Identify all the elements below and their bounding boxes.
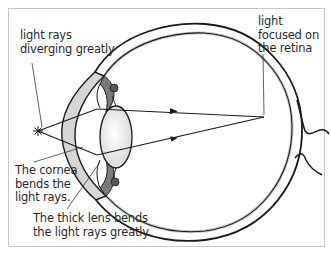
label-diverging: light rays diverging greatly bbox=[20, 29, 115, 56]
label-focused-line2: focused on bbox=[258, 29, 319, 43]
label-focused-line3: the retina bbox=[258, 42, 319, 56]
label-lens: The thick lens bends the light rays grea… bbox=[33, 212, 151, 239]
label-diverging-line1: light rays bbox=[20, 29, 115, 43]
label-focused-line1: light bbox=[258, 15, 319, 29]
label-focused: light focused on the retina bbox=[258, 15, 319, 56]
optic-nerve bbox=[295, 100, 329, 175]
label-lens-line1: The thick lens bends bbox=[33, 212, 151, 226]
arrow-head-upper bbox=[170, 108, 178, 114]
label-lens-line2: the light rays greatly. bbox=[33, 226, 151, 240]
label-cornea-line2: bends the bbox=[15, 178, 77, 192]
label-cornea-line3: light rays. bbox=[15, 191, 77, 205]
label-cornea-line1: The cornea bbox=[15, 164, 77, 178]
label-cornea: The cornea bends the light rays. bbox=[15, 164, 77, 205]
light-source-star-icon bbox=[33, 126, 43, 136]
label-diverging-line2: diverging greatly bbox=[20, 43, 115, 57]
lens bbox=[100, 106, 132, 168]
